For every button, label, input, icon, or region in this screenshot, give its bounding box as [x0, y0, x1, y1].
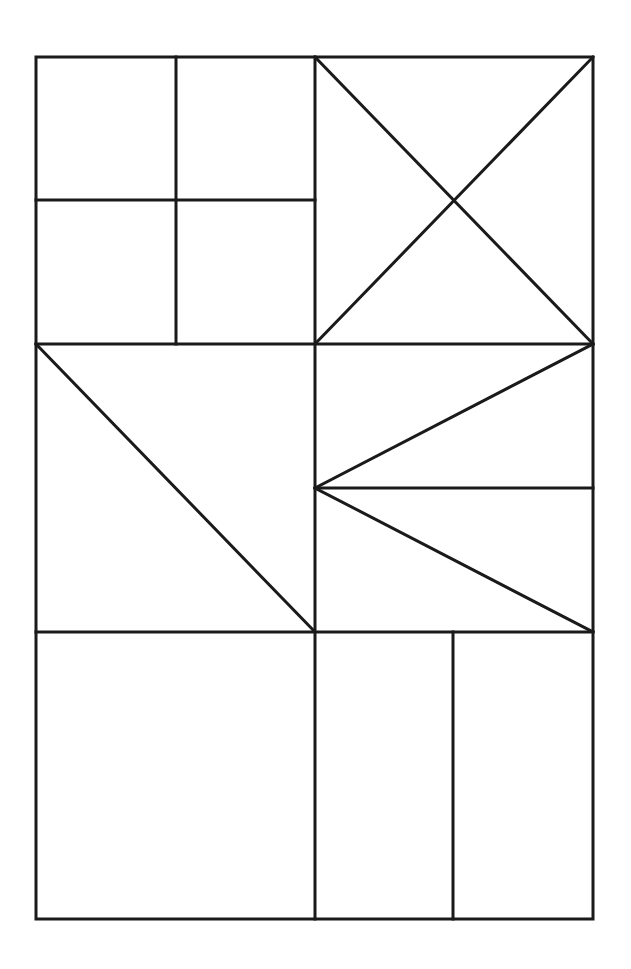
triangle-lower-diagonal [315, 488, 593, 632]
triangle-upper-diagonal [315, 344, 593, 488]
half-square-diagonal [36, 344, 315, 632]
quilt-diagram [0, 0, 631, 969]
